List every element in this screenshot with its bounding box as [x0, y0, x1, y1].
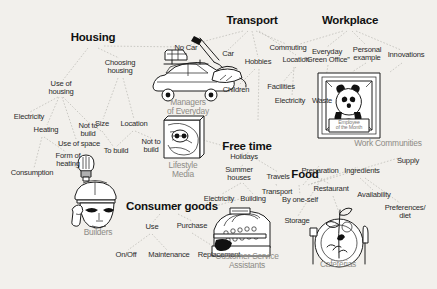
node-holidays[interactable]: Holidays — [230, 153, 258, 161]
cash-register-icon — [212, 208, 270, 256]
caption-customer-service-assistants: Customer Service Assistants — [215, 252, 278, 269]
node-to-build[interactable]: To build — [104, 147, 129, 155]
caption-cafeterias: Cafeterias — [320, 260, 356, 269]
caption-managers-of-everyday: Managers of Everyday — [167, 98, 209, 115]
root-node-housing[interactable]: Housing — [71, 32, 116, 44]
node-purchase[interactable]: Purchase — [177, 222, 207, 230]
node-car[interactable]: Car — [222, 50, 234, 58]
node-children[interactable]: Children — [223, 86, 250, 94]
builder-head-icon — [72, 181, 116, 229]
node-building[interactable]: Building — [240, 195, 265, 203]
node-availability[interactable]: Availability — [357, 191, 390, 199]
node-not-to-build-1[interactable]: Not to build — [78, 122, 97, 137]
node-facilities[interactable]: Facilities — [267, 83, 295, 91]
node-by-one-self[interactable]: By one-self — [282, 196, 318, 204]
node-electricity-workplace[interactable]: Electricity — [275, 97, 305, 105]
label-employee-of-the-month: Employee of the Month — [336, 120, 362, 131]
root-node-transport[interactable]: Transport — [226, 15, 277, 27]
node-summer-houses[interactable]: Summer houses — [225, 166, 253, 181]
node-restaurant[interactable]: Restaurant — [313, 185, 348, 193]
node-innovations[interactable]: Innovations — [388, 51, 425, 59]
caption-lifestyle-media: Lifestyle Media — [169, 161, 198, 178]
magazine-icon — [164, 116, 204, 158]
node-storage[interactable]: Storage — [284, 217, 309, 225]
node-travels[interactable]: Travels — [266, 173, 289, 181]
node-commuting[interactable]: Commuting — [269, 44, 306, 52]
node-maintenance[interactable]: Maintenance — [148, 251, 189, 259]
node-waste[interactable]: Waste — [312, 97, 332, 105]
node-ingredients[interactable]: Ingredients — [344, 167, 379, 175]
node-form-of-heating[interactable]: Form of heating — [56, 152, 81, 167]
node-choosing-housing[interactable]: Choosing housing — [105, 59, 135, 74]
caption-builders: Builders — [84, 228, 113, 237]
node-everyday-green-office[interactable]: Everyday “Green Office” — [304, 48, 349, 63]
node-hobbies[interactable]: Hobbies — [245, 58, 271, 66]
node-heating[interactable]: Heating — [34, 126, 59, 134]
mind-map-diagram: Housing Transport Workplace Free time Fo… — [0, 0, 437, 289]
node-supply[interactable]: Supply — [397, 157, 419, 165]
node-electricity-consumer[interactable]: Electricity — [204, 195, 234, 203]
node-personal-example[interactable]: Personal example — [353, 46, 381, 61]
node-consumption[interactable]: Consumption — [11, 169, 54, 177]
node-use-of-housing[interactable]: Use of housing — [48, 80, 73, 95]
node-preferences-diet[interactable]: Preferences/ diet — [385, 204, 426, 219]
root-node-workplace[interactable]: Workplace — [322, 15, 378, 27]
node-preparation[interactable]: Preparation — [301, 167, 338, 175]
node-no-car[interactable]: No Car — [175, 44, 198, 52]
node-on-off[interactable]: On/Off — [115, 251, 136, 259]
caption-work-communities: Work Communities — [354, 139, 421, 148]
node-use-of-space[interactable]: Use of space — [58, 140, 100, 148]
node-location-housing[interactable]: Location — [120, 120, 147, 128]
node-not-to-build-2[interactable]: Not to build — [141, 138, 160, 153]
root-node-free-time[interactable]: Free time — [222, 141, 271, 153]
node-electricity-housing[interactable]: Electricity — [14, 113, 44, 121]
node-use[interactable]: Use — [146, 223, 159, 231]
